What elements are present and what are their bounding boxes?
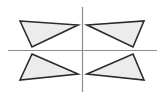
triangle-top-left: [20, 21, 78, 47]
triangle-bottom-left: [20, 54, 78, 80]
triangle-bottom-right: [87, 54, 144, 80]
reflection-diagram: [0, 0, 166, 99]
triangle-top-right: [87, 21, 144, 47]
